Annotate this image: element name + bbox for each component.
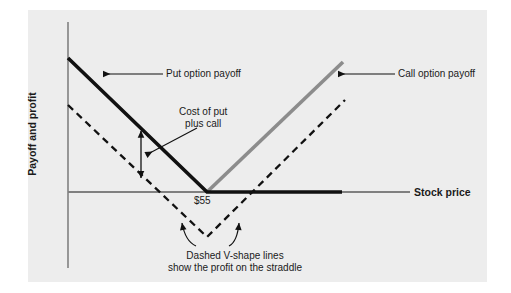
put-payoff-annotation: Put option payoff [166,68,241,80]
straddle-payoff-figure: Payoff and profit Stock price $55 Put op… [0,0,511,293]
cost-annotation-line-2: plus call [179,118,227,130]
cost-annotation: Cost of put plus call [179,106,227,129]
caption-leader-left [182,223,196,246]
caption-line-1: Dashed V-shape lines [140,250,330,262]
series-call-option-payoff [207,62,343,192]
straddle-caption: Dashed V-shape lines show the profit on … [140,250,330,273]
caption-leader-right [229,223,239,246]
strike-price-label: $55 [194,195,211,207]
x-axis-label: Stock price [414,186,471,198]
cost-annotation-line-1: Cost of put [179,106,227,118]
y-axis-label: Payoff and profit [26,74,38,194]
caption-line-2: show the profit on the straddle [140,262,330,274]
call-payoff-annotation: Call option payoff [398,68,475,80]
